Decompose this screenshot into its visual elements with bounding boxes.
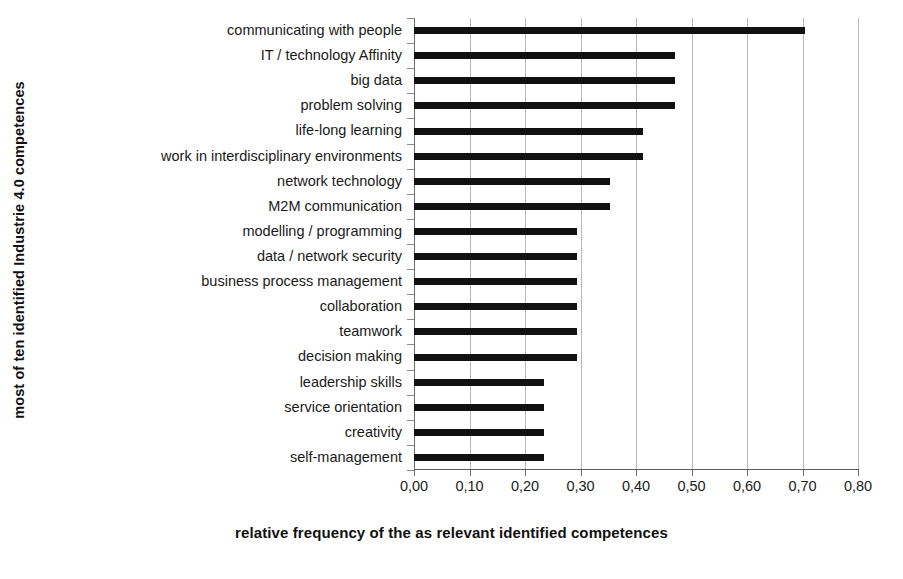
- x-tick-0,80: [858, 470, 859, 476]
- bar: [414, 253, 577, 260]
- category-label-text: service orientation: [284, 400, 402, 415]
- bar: [414, 303, 577, 310]
- category-label-text: business process management: [201, 274, 402, 289]
- x-tick-label: 0,80: [828, 478, 888, 494]
- category-label-4: life-long learning: [42, 118, 408, 143]
- bar: [414, 153, 643, 160]
- x-tick-label: 0,50: [662, 478, 722, 494]
- category-label-text: modelling / programming: [242, 224, 402, 239]
- category-label-text: problem solving: [300, 98, 402, 113]
- category-label-8: modelling / programming: [42, 219, 408, 244]
- category-label-list: communicating with peopleIT / technology…: [42, 18, 408, 470]
- bar: [414, 178, 610, 185]
- bar: [414, 52, 675, 59]
- category-label-17: self-management: [42, 445, 408, 470]
- bar: [414, 278, 577, 285]
- category-label-text: data / network security: [257, 249, 402, 264]
- gridline-0,00: [414, 18, 415, 470]
- x-tick-0,50: [692, 470, 693, 476]
- bar-chart: most of ten identified Industrie 4.0 com…: [0, 0, 903, 579]
- category-label-10: business process management: [42, 269, 408, 294]
- gridline-0,30: [581, 18, 582, 470]
- category-label-0: communicating with people: [42, 18, 408, 43]
- gridline-0,20: [525, 18, 526, 470]
- x-tick-0,20: [525, 470, 526, 476]
- x-tick-label: 0,00: [384, 478, 444, 494]
- y-tick: [407, 118, 414, 119]
- category-label-text: teamwork: [339, 324, 402, 339]
- x-axis-title: relative frequency of the as relevant id…: [0, 524, 903, 541]
- category-label-15: service orientation: [42, 395, 408, 420]
- bar: [414, 429, 544, 436]
- gridline-0,10: [470, 18, 471, 470]
- y-tick: [407, 445, 414, 446]
- bar: [414, 328, 577, 335]
- y-tick: [407, 43, 414, 44]
- bar: [414, 454, 544, 461]
- x-tick-0,30: [581, 470, 582, 476]
- category-label-3: problem solving: [42, 93, 408, 118]
- category-label-text: life-long learning: [296, 123, 402, 138]
- y-tick: [407, 294, 414, 295]
- category-label-text: network technology: [277, 174, 402, 189]
- y-tick: [407, 420, 414, 421]
- category-label-5: work in interdisciplinary environments: [42, 144, 408, 169]
- gridline-0,40: [636, 18, 637, 470]
- y-tick: [407, 269, 414, 270]
- category-label-text: collaboration: [320, 299, 402, 314]
- category-label-2: big data: [42, 68, 408, 93]
- x-tick-label: 0,60: [717, 478, 777, 494]
- bar: [414, 102, 675, 109]
- x-tick-label: 0,40: [606, 478, 666, 494]
- category-label-7: M2M communication: [42, 194, 408, 219]
- category-label-text: decision making: [298, 349, 402, 364]
- x-tick-0,00: [414, 470, 415, 476]
- bar: [414, 27, 805, 34]
- x-tick-label: 0,70: [773, 478, 833, 494]
- y-tick: [407, 68, 414, 69]
- bar: [414, 354, 577, 361]
- x-tick-label: 0,20: [495, 478, 555, 494]
- category-label-text: IT / technology Affinity: [261, 48, 402, 63]
- bar: [414, 379, 544, 386]
- x-tick-0,60: [747, 470, 748, 476]
- y-tick: [407, 470, 414, 471]
- x-tick-label: 0,30: [551, 478, 611, 494]
- gridline-0,80: [858, 18, 859, 470]
- category-label-12: teamwork: [42, 319, 408, 344]
- category-label-16: creativity: [42, 420, 408, 445]
- y-tick: [407, 169, 414, 170]
- category-label-6: network technology: [42, 169, 408, 194]
- gridline-0,70: [803, 18, 804, 470]
- y-tick: [407, 395, 414, 396]
- category-label-text: work in interdisciplinary environments: [161, 149, 402, 164]
- category-label-text: M2M communication: [268, 199, 402, 214]
- x-tick-label: 0,10: [440, 478, 500, 494]
- x-tick-0,70: [803, 470, 804, 476]
- y-tick: [407, 93, 414, 94]
- y-tick: [407, 319, 414, 320]
- bar: [414, 77, 675, 84]
- bar: [414, 228, 577, 235]
- category-label-text: self-management: [290, 450, 402, 465]
- y-tick: [407, 219, 414, 220]
- y-tick: [407, 144, 414, 145]
- category-label-11: collaboration: [42, 294, 408, 319]
- y-tick: [407, 244, 414, 245]
- y-axis-title-text: most of ten identified Industrie 4.0 com…: [11, 81, 27, 419]
- category-label-text: big data: [350, 73, 402, 88]
- gridline-0,60: [747, 18, 748, 470]
- y-axis-title: most of ten identified Industrie 4.0 com…: [0, 0, 38, 500]
- bar: [414, 128, 643, 135]
- y-tick: [407, 194, 414, 195]
- category-label-text: creativity: [345, 425, 402, 440]
- category-label-13: decision making: [42, 344, 408, 369]
- y-tick: [407, 370, 414, 371]
- category-label-14: leadership skills: [42, 370, 408, 395]
- y-tick: [407, 344, 414, 345]
- category-label-1: IT / technology Affinity: [42, 43, 408, 68]
- bar: [414, 404, 544, 411]
- category-label-text: leadership skills: [300, 375, 402, 390]
- bar: [414, 203, 610, 210]
- category-label-text: communicating with people: [227, 23, 402, 38]
